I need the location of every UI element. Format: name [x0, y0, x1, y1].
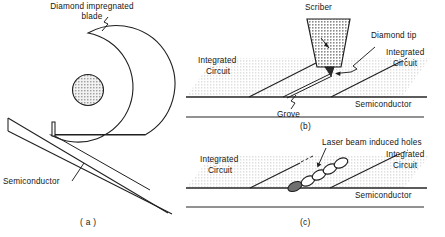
semiconductor-label-c: Semiconductor: [355, 191, 412, 200]
figure-root: Diamond impregnated blade Semiconductor …: [0, 0, 445, 237]
panel-caption-b: (b): [300, 122, 311, 131]
ic-label-left-b-line2: Circuit: [206, 67, 230, 76]
ic-label-right-b-line2: Circuit: [393, 59, 417, 68]
ic-label-right-c-line2: Circuit: [393, 161, 417, 170]
blade-label-line1: Diamond impregnated: [27, 2, 157, 11]
diamond-tip-label: Diamond tip: [371, 31, 416, 40]
semiconductor-slab-bottom-edge: [8, 131, 172, 214]
scriber-label: Scriber: [305, 3, 332, 12]
semiconductor-label-a: Semiconductor: [3, 177, 60, 186]
panel-caption-c: (c): [300, 218, 311, 227]
laser-holes-label: Laser beam induced holes: [322, 138, 422, 147]
blade-groove-notch: [52, 122, 55, 136]
ic-label-left-b-line1: Integrated: [198, 56, 236, 65]
ic-label-right-b-line1: Integrated: [386, 48, 424, 57]
blade-disc: [51, 26, 175, 142]
blade-groove-inner-line: [55, 136, 150, 190]
panel-caption-a: ( a ): [80, 218, 96, 227]
grove-label: Grove: [277, 110, 300, 119]
ic-label-left-c-line2: Circuit: [208, 166, 232, 175]
blade-hub: [73, 75, 104, 106]
semiconductor-label-b: Semiconductor: [355, 100, 412, 109]
semiconductor-label-leader-a: [72, 163, 84, 181]
blade-label-line2: blade: [27, 12, 157, 21]
ic-label-right-c-line1: Integrated: [386, 150, 424, 159]
ic-label-left-c-line1: Integrated: [200, 155, 238, 164]
